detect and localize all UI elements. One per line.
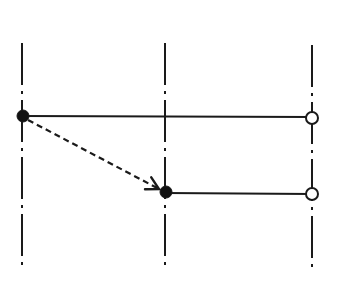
filled-dot-icon [160,186,172,198]
filled-dot-icon [17,110,29,122]
diagram-canvas [0,0,349,287]
background [0,0,349,287]
track-upper-line [22,116,312,117]
open-circle-icon [306,188,318,200]
open-circle-icon [306,112,318,124]
track-lower-line [165,193,312,194]
